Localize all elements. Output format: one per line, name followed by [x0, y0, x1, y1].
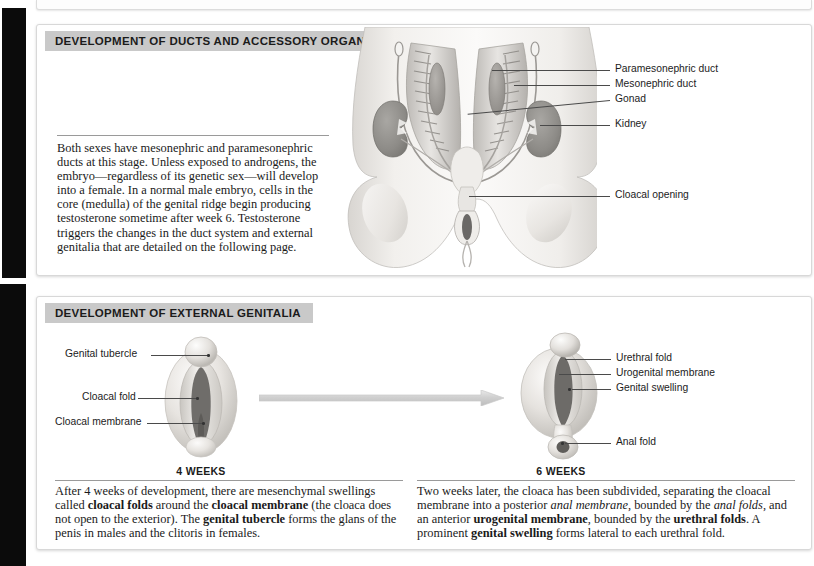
ducts-body-text: Both sexes have mesonephric and parameso… — [57, 141, 329, 254]
label-mesonephric-duct: Mesonephric duct — [615, 78, 696, 89]
page-top-strip — [36, 0, 812, 10]
label-anal-fold: Anal fold — [616, 436, 656, 447]
caption-fragment: genital tubercle — [203, 512, 285, 526]
leader-urethral-fold — [565, 359, 611, 360]
leader-cloacal-membrane — [147, 423, 204, 424]
leader-urogenital-membrane — [559, 374, 611, 375]
leader-dot-anal-fold — [561, 442, 564, 445]
caption-fragment: genital swelling — [471, 526, 553, 540]
leader-genital-tubercle — [151, 355, 209, 356]
leader-cloacal-fold — [138, 398, 198, 399]
caption-fragment: , bounded by the — [588, 512, 674, 526]
leader-cloacal-opening — [469, 196, 610, 197]
caption-fragment: anal folds — [714, 498, 763, 512]
caption-fragment: urogenital membrane — [473, 512, 587, 526]
leader-dot-cloacal-fold — [196, 397, 199, 400]
leader-kidney — [540, 125, 610, 126]
caption-fragment: cloacal membrane — [212, 498, 309, 512]
leader-dot-genital-swelling — [568, 388, 571, 391]
scan-edge-artifact-bottom — [0, 284, 26, 566]
label-paramesonephric-duct: Paramesonephric duct — [615, 63, 718, 74]
paragraph-top-rule — [57, 135, 329, 136]
panel-development-of-ducts: DEVELOPMENT OF DUCTS AND ACCESSORY ORGAN… — [36, 24, 812, 276]
panel-development-of-external-genitalia: DEVELOPMENT OF EXTERNAL GENITALIA — [36, 296, 812, 550]
label-cloacal-opening: Cloacal opening — [615, 189, 689, 200]
leader-genital-swelling — [572, 389, 611, 390]
leader-mesonephric-duct — [514, 85, 610, 86]
label-gonad: Gonad — [615, 93, 646, 104]
embryo-duct-illustration — [337, 27, 597, 275]
leader-dot-genital-tubercle — [207, 354, 210, 357]
label-cloacal-fold: Cloacal fold — [82, 391, 136, 402]
panel-genitalia-header: DEVELOPMENT OF EXTERNAL GENITALIA — [45, 303, 313, 323]
leader-paramesonephric-duct — [492, 70, 610, 71]
panel-ducts-header: DEVELOPMENT OF DUCTS AND ACCESSORY ORGAN… — [45, 31, 385, 51]
caption-left-rule — [55, 480, 403, 481]
label-urogenital-membrane: Urogenital membrane — [616, 367, 715, 378]
label-kidney: Kidney — [615, 118, 646, 129]
transition-arrow — [259, 390, 504, 406]
figure-page: DEVELOPMENT OF DUCTS AND ACCESSORY ORGAN… — [0, 0, 814, 566]
caption-fragment: around the — [153, 498, 212, 512]
leader-dot-cloacal-membrane — [202, 422, 205, 425]
caption-6-weeks-text: Two weeks later, the cloaca has been sub… — [417, 484, 797, 540]
label-urethral-fold: Urethral fold — [616, 352, 672, 363]
label-genital-tubercle: Genital tubercle — [65, 348, 137, 359]
caption-fragment: urethral folds — [674, 512, 746, 526]
caption-right-rule — [417, 480, 795, 481]
stage-caption-6-weeks: 6 WEEKS — [501, 465, 621, 477]
caption-fragment: , bounded by the — [628, 498, 714, 512]
caption-fragment: forms lateral to each urethral fold. — [553, 526, 725, 540]
label-genital-swelling: Genital swelling — [616, 382, 688, 393]
leader-anal-fold — [565, 443, 611, 444]
scan-edge-artifact-top — [2, 8, 26, 278]
stage-caption-4-weeks: 4 WEEKS — [141, 465, 261, 477]
label-cloacal-membrane: Cloacal membrane — [55, 416, 141, 427]
caption-fragment: cloacal folds — [88, 498, 153, 512]
caption-4-weeks-text: After 4 weeks of development, there are … — [55, 484, 407, 540]
caption-fragment: anal membrane — [551, 498, 628, 512]
